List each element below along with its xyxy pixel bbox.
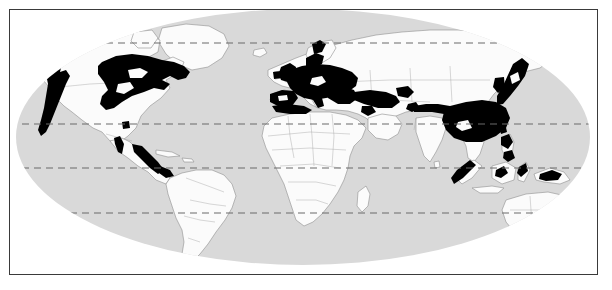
world-map — [10, 10, 596, 273]
range-iberia-interior-gap — [278, 95, 288, 101]
land-arctic-islands — [68, 22, 134, 36]
range-ireland — [273, 71, 282, 79]
range-vancouver — [52, 52, 64, 63]
land-sri-lanka — [434, 161, 440, 168]
range-us-southeast-dot — [122, 121, 130, 129]
land-new-zealand — [574, 218, 590, 242]
map-frame — [9, 9, 598, 275]
land-alaska — [15, 45, 40, 65]
land-kamchatka — [539, 36, 556, 60]
land-tasmania — [548, 242, 558, 251]
land-australia — [502, 192, 576, 240]
world-distribution-figure — [0, 0, 612, 290]
